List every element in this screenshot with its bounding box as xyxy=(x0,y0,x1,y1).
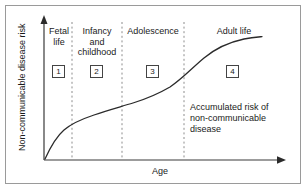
x-axis-title: Age xyxy=(120,166,200,177)
y-axis-title: Non-communicable disease risk xyxy=(17,17,28,157)
stage-number-box-4: 4 xyxy=(226,65,239,78)
curve-annotation-line-1: Accumulated risk of xyxy=(190,102,296,113)
stage-number-box-2: 2 xyxy=(90,65,103,78)
stage-number-box-3: 3 xyxy=(146,65,159,78)
stage-title-adult-life: Adult life xyxy=(186,26,282,37)
stage-number-box-1: 1 xyxy=(52,65,65,78)
curve-annotation-line-2: non-communicable xyxy=(190,113,296,124)
stage-title-fetal-life: Fetal life xyxy=(46,26,72,47)
curve-annotation: Accumulated risk of non-communicable dis… xyxy=(190,102,296,135)
figure-container: Fetal life Infancy and childhood Adolesc… xyxy=(0,0,307,190)
x-axis-arrowhead xyxy=(277,156,286,163)
curve-annotation-line-3: disease xyxy=(190,124,296,135)
stage-title-infancy-and-childhood: Infancy and childhood xyxy=(74,26,120,58)
stage-title-adolescence: Adolescence xyxy=(124,26,182,37)
y-axis-arrowhead xyxy=(41,15,48,24)
